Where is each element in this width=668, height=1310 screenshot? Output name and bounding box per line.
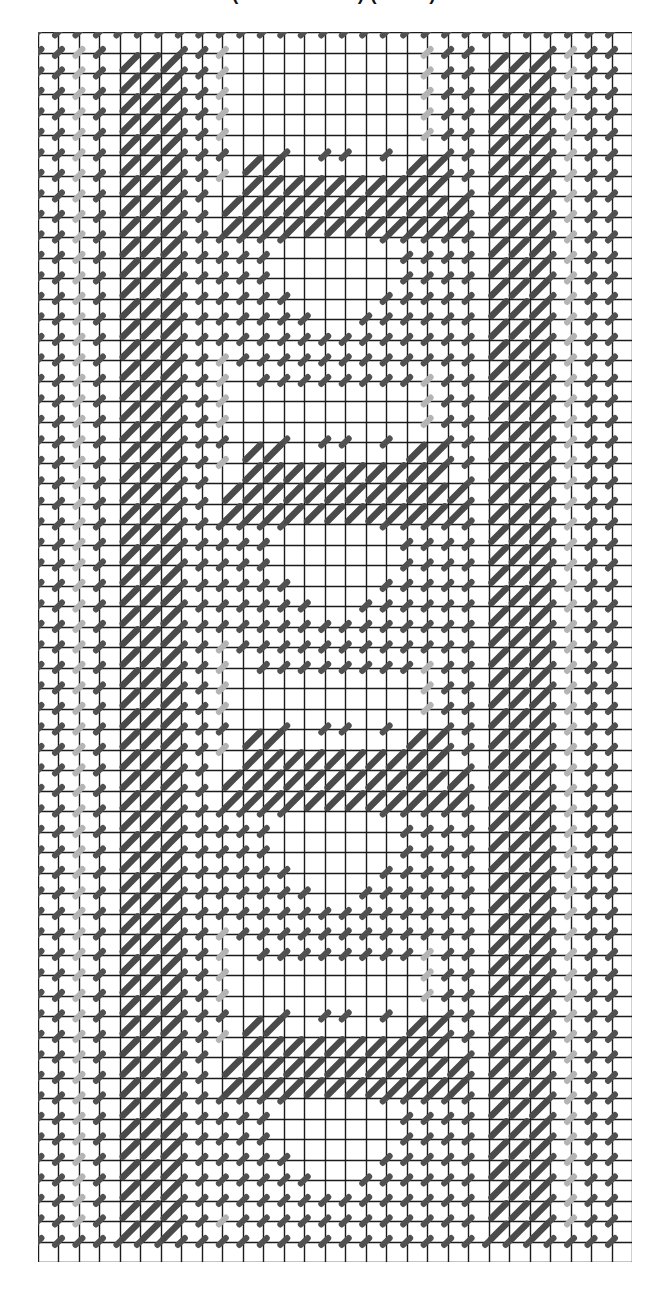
pattern-chart xyxy=(38,32,632,1262)
chart-page: (Cross-Stitch) (Chart) xyxy=(0,0,668,1310)
chart-stitch-layer xyxy=(38,32,632,1262)
chart-caption-strip: (Cross-Stitch) (Chart) xyxy=(0,0,668,14)
chart-caption: (Cross-Stitch) (Chart) xyxy=(0,0,668,5)
